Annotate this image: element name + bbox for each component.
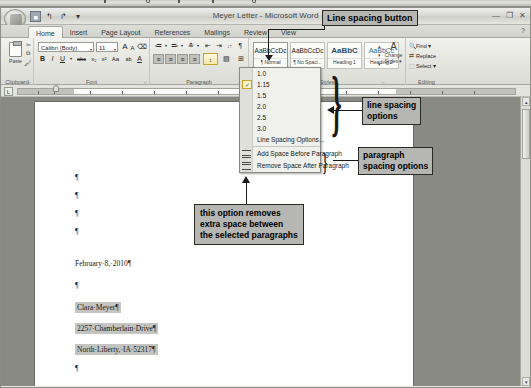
annotation-line-1: line spacing: [367, 100, 416, 111]
menu-item-spacing-2-0[interactable]: 2.0: [240, 101, 320, 112]
menu-item-line-spacing-options[interactable]: Line Spacing Options...: [240, 134, 320, 145]
paragraph-mark: ¶: [75, 209, 78, 218]
menu-item-spacing-1-5[interactable]: 1.5: [240, 90, 320, 101]
bullets-dropdown-icon[interactable]: ▾: [163, 41, 168, 51]
superscript-icon[interactable]: x²: [99, 54, 109, 64]
styles-scroll-down-icon[interactable]: ▾: [376, 51, 383, 60]
style-sample-text: AaBbC: [328, 43, 361, 58]
remove-space-after-icon: [242, 162, 251, 170]
tab-home[interactable]: Home: [28, 26, 63, 38]
text-highlight-icon[interactable]: ab: [123, 54, 134, 64]
font-name-value: Calibri (Body): [41, 45, 77, 51]
annotation-line-2: options: [367, 111, 416, 122]
copy-icon[interactable]: ⧉: [24, 50, 32, 58]
scroll-down-icon[interactable]: ▾: [522, 377, 530, 386]
sort-icon[interactable]: ↓↑: [224, 41, 235, 51]
shrink-font-icon[interactable]: A: [129, 43, 136, 53]
menu-item-remove-space-after-paragraph[interactable]: Remove Space After Paragraph: [240, 160, 320, 172]
ribbon-group-paragraph: ≔ ▾ ≕ ▾ ≛ ▾ ⇤ ⇥ ↓↑ ¶ ≡ ≡ ≡ ≡ ↕ ▨ ⊞ Parag…: [150, 38, 249, 85]
tab-references[interactable]: References: [148, 25, 198, 38]
annotation-line-1: this option removes: [200, 208, 298, 219]
ribbon-tab-row: Home Insert Page Layout References Maili…: [1, 25, 530, 38]
ribbon-group-editing: 🔍Find ▾ ⇄Replace ⬚Select ▾ Editing: [406, 38, 447, 85]
annotation-line-spacing-button: Line spacing button: [322, 10, 418, 26]
menu-item-add-space-before-paragraph[interactable]: Add Space Before Paragraph: [240, 148, 320, 160]
italic-icon[interactable]: I: [48, 54, 57, 64]
paragraph-mark: ¶: [75, 191, 78, 200]
styles-more-icon[interactable]: ▾: [376, 60, 383, 69]
increase-indent-icon[interactable]: ⇥: [213, 41, 224, 51]
multilevel-dropdown-icon[interactable]: ▾: [195, 41, 200, 51]
minimize-button[interactable]: —: [492, 11, 500, 21]
window-controls: — ❐ ✕: [492, 11, 526, 21]
clear-formatting-icon[interactable]: ⌫: [137, 42, 147, 52]
ruler-tick: [252, 0, 256, 3]
change-styles-button[interactable]: A Change Styles ▾: [383, 41, 404, 64]
change-styles-icon: A: [383, 41, 404, 52]
styles-gallery-scroll: ▴ ▾ ▾: [376, 42, 383, 69]
search-icon: 🔍: [409, 42, 416, 50]
font-size-combo[interactable]: 11 ▾: [96, 42, 118, 52]
format-painter-icon[interactable]: 🖌: [24, 59, 32, 67]
close-button[interactable]: ✕: [519, 11, 526, 21]
paste-button[interactable]: Paste: [6, 41, 25, 71]
underline-dropdown-icon[interactable]: ▾: [68, 54, 74, 64]
menu-item-spacing-2-5[interactable]: 2.5: [240, 112, 320, 123]
shading-icon[interactable]: ▨: [221, 54, 232, 64]
styles-scroll-up-icon[interactable]: ▴: [376, 42, 383, 51]
scrollbar-thumb[interactable]: [522, 109, 530, 159]
cropped-ruler-strip: [0, 0, 531, 7]
help-icon[interactable]: ?: [521, 27, 525, 34]
checkmark-icon: ✓: [242, 80, 252, 89]
strikethrough-icon[interactable]: abc: [75, 54, 88, 64]
change-case-icon[interactable]: Aa: [110, 54, 121, 64]
line-spacing-button[interactable]: ↕: [203, 53, 218, 65]
subscript-icon[interactable]: x₂: [89, 54, 99, 64]
grow-font-icon[interactable]: A: [121, 42, 129, 52]
tab-view[interactable]: View: [274, 25, 303, 38]
find-button[interactable]: 🔍Find ▾: [409, 42, 431, 50]
scroll-up-icon[interactable]: ▴: [522, 97, 530, 106]
style-no-spacing[interactable]: AaBbCcDc ¶ No Spaci...: [290, 42, 325, 69]
annotation-line-2: extra space between: [200, 219, 298, 230]
font-color-icon[interactable]: A: [135, 54, 144, 64]
tab-insert[interactable]: Insert: [63, 25, 95, 38]
underline-icon[interactable]: U: [58, 54, 67, 64]
line-spacing-dropdown-menu[interactable]: 1.0 ✓ 1.15 1.5 2.0 2.5 3.0 Line Spacing …: [239, 67, 321, 173]
align-right-icon[interactable]: ≡: [177, 54, 188, 64]
justify-icon[interactable]: ≡: [189, 54, 200, 64]
replace-icon: ⇄: [409, 52, 416, 60]
replace-button[interactable]: ⇄Replace: [409, 52, 436, 60]
chevron-down-icon[interactable]: ▾: [90, 46, 92, 54]
borders-icon[interactable]: ⊞: [235, 54, 246, 64]
menu-item-label: 2.5: [257, 114, 266, 121]
numbering-dropdown-icon[interactable]: ▾: [179, 41, 184, 51]
ruler-tick: [146, 0, 150, 3]
menu-item-label: 1.15: [257, 81, 270, 88]
menu-item-spacing-1-0[interactable]: 1.0: [240, 68, 320, 79]
menu-item-label: 2.0: [257, 103, 266, 110]
tab-stop-selector-button[interactable]: L: [4, 87, 13, 96]
leader-line: [268, 29, 269, 56]
vertical-scrollbar[interactable]: ▴ ▾: [520, 97, 530, 386]
select-button[interactable]: ⬚Select ▾: [409, 62, 436, 70]
align-left-icon[interactable]: ≡: [153, 54, 164, 64]
tab-page-layout[interactable]: Page Layout: [94, 25, 147, 38]
paragraph-mark: ¶: [75, 227, 78, 236]
tab-mailings[interactable]: Mailings: [197, 25, 237, 38]
chevron-down-icon[interactable]: ▾: [114, 46, 116, 54]
menu-item-spacing-3-0[interactable]: 3.0: [240, 123, 320, 134]
cut-icon[interactable]: ✂: [24, 41, 32, 49]
font-name-combo[interactable]: Calibri (Body) ▾: [38, 42, 94, 52]
restore-button[interactable]: ❐: [506, 11, 513, 21]
align-center-icon[interactable]: ≡: [165, 54, 176, 64]
leader-arrowhead: [265, 55, 273, 61]
bold-icon[interactable]: B: [38, 54, 47, 64]
select-label: Select ▾: [416, 63, 436, 69]
menu-item-spacing-1-15[interactable]: ✓ 1.15: [240, 79, 320, 90]
first-line-indent-marker[interactable]: [53, 85, 59, 92]
show-formatting-marks-icon[interactable]: ¶: [235, 41, 246, 51]
decrease-indent-icon[interactable]: ⇤: [202, 41, 213, 51]
menu-item-label: Add Space Before Paragraph: [257, 150, 342, 157]
style-name-label: ¶ No Spaci...: [291, 58, 324, 66]
